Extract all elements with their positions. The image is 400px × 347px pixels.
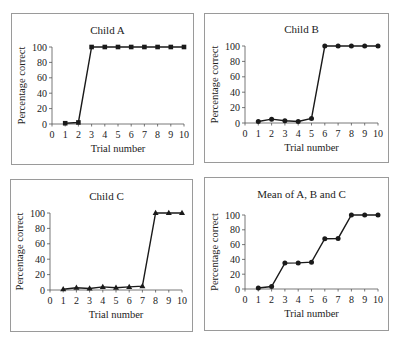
data-point-square-marker <box>63 121 68 126</box>
y-tick-label: 100 <box>225 41 240 52</box>
x-tick-label: 7 <box>140 295 145 306</box>
x-tick-label: 2 <box>269 128 274 139</box>
x-tick-label: 9 <box>166 295 171 306</box>
y-axis-label: Percentage correct <box>209 46 220 124</box>
y-tick-label: 20 <box>35 269 45 280</box>
x-tick-label: 4 <box>100 295 105 306</box>
chart-title: Child C <box>89 190 124 202</box>
chart-mean: Mean of A, B and C0204060801000123456789… <box>209 188 383 319</box>
data-point-triangle-marker <box>73 284 79 289</box>
data-point-circle-marker <box>282 261 287 266</box>
y-tick-label: 60 <box>230 71 240 82</box>
x-tick-label: 2 <box>76 129 81 140</box>
x-axis-label: Trial number <box>284 142 339 153</box>
data-point-square-marker <box>129 45 134 50</box>
x-axis-label: Trial number <box>91 143 146 154</box>
x-tick-label: 0 <box>243 294 248 305</box>
y-tick-label: 40 <box>230 254 240 265</box>
x-tick-label: 2 <box>269 294 274 305</box>
data-point-triangle-marker <box>139 283 145 288</box>
data-line <box>65 47 184 123</box>
y-axis-label: Percentage correct <box>209 213 220 291</box>
data-point-circle-marker <box>322 44 327 49</box>
x-tick-label: 1 <box>256 294 261 305</box>
data-point-circle-marker <box>376 213 381 218</box>
x-tick-label: 4 <box>102 129 107 140</box>
data-line <box>63 213 182 289</box>
data-point-circle-marker <box>349 44 354 49</box>
data-point-square-marker <box>89 45 94 50</box>
x-tick-label: 6 <box>322 128 327 139</box>
y-axis-label: Percentage correct <box>14 213 25 291</box>
y-tick-label: 0 <box>42 119 47 130</box>
x-tick-label: 9 <box>168 129 173 140</box>
data-point-circle-marker <box>362 44 367 49</box>
y-tick-label: 40 <box>37 88 47 99</box>
y-tick-label: 0 <box>235 284 240 295</box>
y-tick-label: 100 <box>32 42 47 53</box>
data-point-square-marker <box>155 45 160 50</box>
x-tick-label: 4 <box>296 294 301 305</box>
y-tick-label: 60 <box>230 239 240 250</box>
y-tick-label: 40 <box>35 254 45 265</box>
x-tick-label: 0 <box>243 128 248 139</box>
data-point-square-marker <box>169 45 174 50</box>
data-point-square-marker <box>76 120 81 125</box>
x-tick-label: 5 <box>309 294 314 305</box>
data-point-square-marker <box>103 45 108 50</box>
x-tick-label: 10 <box>177 295 187 306</box>
chart-child-a: Child A020406080100012345678910Trial num… <box>16 24 189 154</box>
chart-canvas: Child A020406080100012345678910Trial num… <box>0 0 400 347</box>
x-tick-label: 3 <box>87 295 92 306</box>
y-tick-label: 80 <box>230 224 240 235</box>
data-point-circle-marker <box>282 118 287 123</box>
x-tick-label: 10 <box>373 128 383 139</box>
x-tick-label: 0 <box>48 295 53 306</box>
x-tick-label: 6 <box>322 294 327 305</box>
x-tick-label: 1 <box>61 295 66 306</box>
chart-title: Child B <box>284 23 319 35</box>
x-tick-label: 7 <box>142 129 147 140</box>
data-point-circle-marker <box>269 117 274 122</box>
x-tick-label: 4 <box>296 128 301 139</box>
y-tick-label: 20 <box>230 269 240 280</box>
data-point-triangle-marker <box>100 284 106 289</box>
data-point-circle-marker <box>296 260 301 265</box>
data-point-circle-marker <box>309 116 314 121</box>
x-tick-label: 9 <box>362 128 367 139</box>
y-tick-label: 20 <box>230 102 240 113</box>
x-tick-label: 8 <box>349 128 354 139</box>
y-tick-label: 100 <box>225 210 240 221</box>
x-tick-label: 8 <box>155 129 160 140</box>
y-tick-label: 20 <box>37 103 47 114</box>
x-tick-label: 9 <box>362 294 367 305</box>
data-point-circle-marker <box>256 286 261 291</box>
data-point-circle-marker <box>296 119 301 124</box>
y-tick-label: 60 <box>37 72 47 83</box>
x-tick-label: 10 <box>373 294 383 305</box>
data-point-circle-marker <box>336 236 341 241</box>
data-line <box>258 215 378 288</box>
chart-title: Mean of A, B and C <box>257 188 346 200</box>
x-tick-label: 2 <box>74 295 79 306</box>
x-tick-label: 1 <box>63 129 68 140</box>
data-point-square-marker <box>182 45 187 50</box>
data-point-circle-marker <box>376 44 381 49</box>
data-line <box>258 46 378 121</box>
chart-child-c: Child C020406080100012345678910Trial num… <box>14 190 187 320</box>
data-point-circle-marker <box>349 213 354 218</box>
y-tick-label: 0 <box>40 285 45 296</box>
data-point-square-marker <box>142 45 147 50</box>
x-tick-label: 8 <box>153 295 158 306</box>
x-tick-label: 8 <box>349 294 354 305</box>
x-tick-label: 5 <box>309 128 314 139</box>
y-tick-label: 80 <box>35 223 45 234</box>
y-tick-label: 60 <box>35 238 45 249</box>
data-point-square-marker <box>116 45 121 50</box>
x-tick-label: 6 <box>129 129 134 140</box>
chart-title: Child A <box>90 24 125 36</box>
data-point-circle-marker <box>336 44 341 49</box>
x-tick-label: 3 <box>282 294 287 305</box>
data-point-circle-marker <box>322 236 327 241</box>
x-tick-label: 5 <box>116 129 121 140</box>
